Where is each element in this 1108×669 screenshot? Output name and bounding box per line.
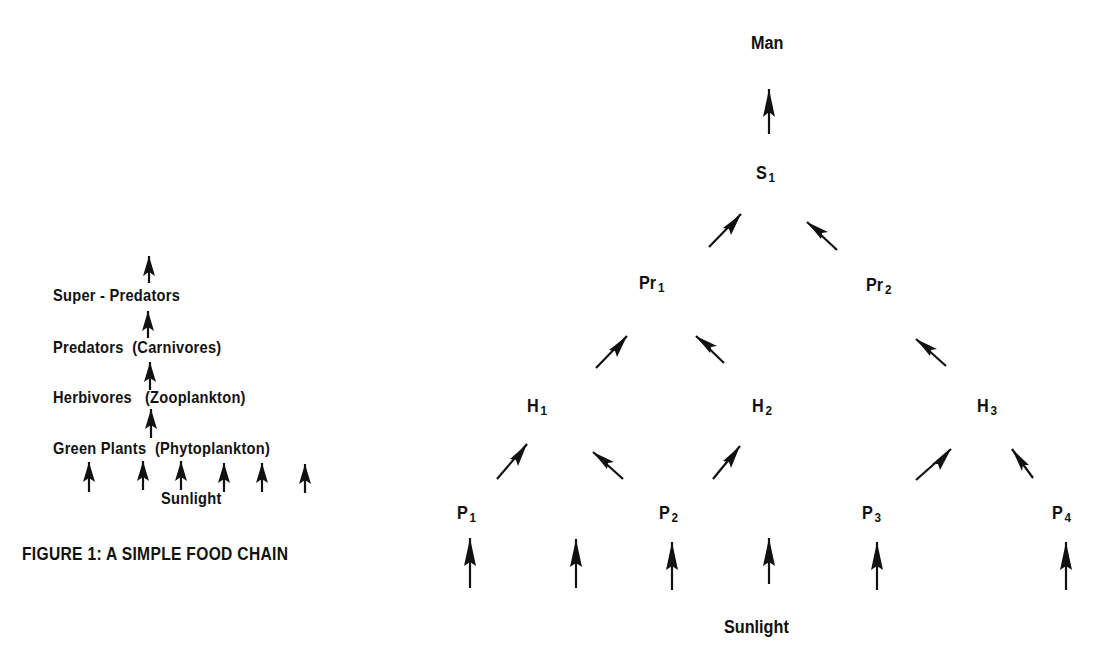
node-subscript: 2 <box>885 282 892 297</box>
node-subscript: 1 <box>658 280 665 295</box>
node-subscript: 3 <box>991 403 998 418</box>
level-qualifier: (Zooplankton) <box>145 388 246 407</box>
node-base: P <box>659 503 670 523</box>
node-base: S <box>756 163 767 183</box>
node-base: P <box>862 503 873 523</box>
node-h1: H1 <box>527 396 547 418</box>
node-base: P <box>457 503 468 523</box>
node-base: Pr <box>639 273 656 293</box>
fig2-arrow-s1-man <box>763 89 775 134</box>
level-label: Super - Predators <box>53 286 180 305</box>
node-subscript: 4 <box>1065 510 1072 525</box>
fig1-level-predators: Predators (Carnivores) <box>53 338 221 358</box>
node-p4: P4 <box>1052 503 1071 525</box>
node-subscript: 1 <box>541 403 548 418</box>
node-base: H <box>977 396 989 416</box>
node-h3: H3 <box>977 396 997 418</box>
fig1-caption: FIGURE 1: A SIMPLE FOOD CHAIN <box>22 543 288 565</box>
fig2-arrows-h-pr <box>596 336 946 368</box>
fig1-level-super-predators: Super - Predators <box>53 286 180 306</box>
node-p2: P2 <box>659 503 678 525</box>
node-man: Man <box>751 33 783 54</box>
fig2-sunlight-arrows <box>464 538 1072 590</box>
level-label: Predators <box>53 338 124 357</box>
node-subscript: 1 <box>470 510 477 525</box>
node-s1: S1 <box>756 163 775 185</box>
fig2-arrows-p-h <box>497 444 1033 480</box>
fig2-sunlight: Sunlight <box>724 617 789 638</box>
node-p1: P1 <box>457 503 476 525</box>
node-base: H <box>527 396 539 416</box>
node-subscript: 3 <box>875 510 882 525</box>
node-subscript: 2 <box>672 510 679 525</box>
node-subscript: 2 <box>766 403 773 418</box>
node-base: P <box>1052 503 1063 523</box>
fig1-level-green-plants: Green Plants (Phytoplankton) <box>53 439 270 459</box>
node-h2: H2 <box>752 396 772 418</box>
node-pr2: Pr2 <box>866 275 891 297</box>
node-subscript: 1 <box>769 170 776 185</box>
fig1-sunlight: Sunlight <box>161 489 222 509</box>
node-base: Pr <box>866 275 883 295</box>
node-p3: P3 <box>862 503 881 525</box>
node-pr1: Pr1 <box>639 273 664 295</box>
fig1-level-herbivores: Herbivores (Zooplankton) <box>53 388 246 408</box>
level-label: Green Plants <box>53 439 146 458</box>
level-qualifier: (Carnivores) <box>132 338 221 357</box>
level-label: Herbivores <box>53 388 132 407</box>
arrow-layer <box>0 0 1108 669</box>
node-base: H <box>752 396 764 416</box>
level-qualifier: (Phytoplankton) <box>155 439 270 458</box>
